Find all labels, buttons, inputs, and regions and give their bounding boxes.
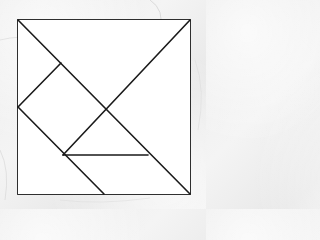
- tangram-diagram: [0, 0, 206, 209]
